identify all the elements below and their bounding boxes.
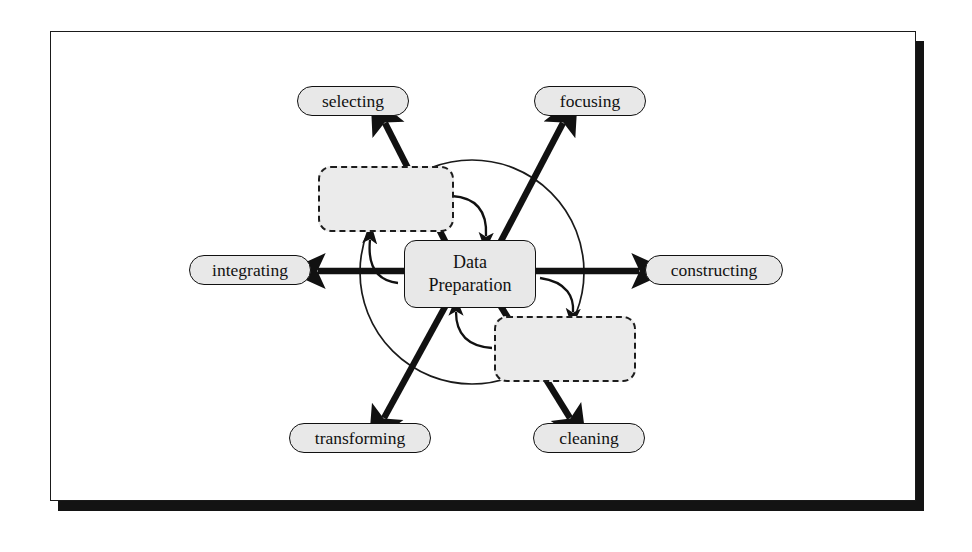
node-integrating[interactable]: integrating: [189, 255, 311, 285]
node-integrating-label: integrating: [212, 260, 288, 281]
node-selecting[interactable]: selecting: [297, 86, 409, 116]
node-constructing-label: constructing: [671, 260, 758, 281]
dashed-node-upper[interactable]: [318, 166, 454, 232]
dashed-node-lower[interactable]: [494, 316, 636, 382]
node-transforming[interactable]: transforming: [289, 423, 431, 453]
node-focusing-label: focusing: [560, 91, 620, 112]
figure-page: the data mining process and the steps th…: [0, 0, 972, 552]
node-transforming-label: transforming: [315, 428, 405, 449]
node-focusing[interactable]: focusing: [534, 86, 646, 116]
node-constructing[interactable]: constructing: [645, 255, 783, 285]
node-cleaning[interactable]: cleaning: [533, 423, 645, 453]
node-data-preparation-line2: Preparation: [429, 274, 512, 297]
node-cleaning-label: cleaning: [559, 428, 618, 449]
node-data-preparation[interactable]: Data Preparation: [404, 240, 536, 308]
node-selecting-label: selecting: [322, 91, 384, 112]
node-data-preparation-line1: Data: [453, 251, 487, 274]
